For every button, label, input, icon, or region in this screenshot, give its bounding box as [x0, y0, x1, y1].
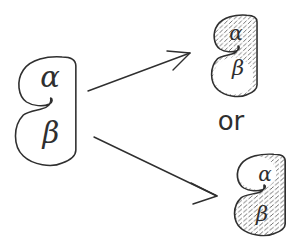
outcome-alpha-marked-shape: α β: [212, 15, 257, 96]
arrow-top-shaft: [88, 53, 190, 91]
outcome-beta-marked-shape: α β: [235, 154, 286, 235]
outcome-top-beta-label: β: [231, 56, 244, 80]
outcome-bottom-beta-label: β: [255, 202, 268, 226]
dimer-outcomes-figure: α β α β or: [0, 0, 296, 244]
or-text: or: [218, 106, 245, 136]
diagram-canvas: α β α β or: [0, 0, 296, 244]
arrow-to-beta-marked: [94, 137, 217, 204]
source-alpha-label: α: [40, 60, 60, 94]
source-dimer-shape: α β: [15, 57, 75, 166]
arrow-to-alpha-marked: [88, 51, 190, 91]
source-beta-label: β: [42, 116, 60, 150]
outcome-top-alpha-label: α: [229, 21, 243, 45]
outcome-bottom-alpha-label: α: [258, 162, 272, 186]
